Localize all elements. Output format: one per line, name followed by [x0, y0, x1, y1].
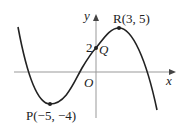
point-r — [117, 26, 121, 30]
point-r-label: R(3, 5) — [113, 11, 150, 26]
cubic-graph: y x O 2 Q R(3, 5) P(−5, −4) — [0, 0, 186, 127]
x-axis-label: x — [165, 73, 172, 88]
y-axis-label: y — [82, 8, 90, 23]
point-p — [48, 102, 52, 106]
point-p-label: P(−5, −4) — [26, 108, 76, 123]
y-intercept-label: 2 — [86, 40, 93, 55]
point-q — [94, 46, 98, 50]
y-axis-arrow-icon — [93, 14, 99, 21]
origin-label: O — [84, 75, 94, 90]
point-q-label: Q — [99, 42, 109, 57]
